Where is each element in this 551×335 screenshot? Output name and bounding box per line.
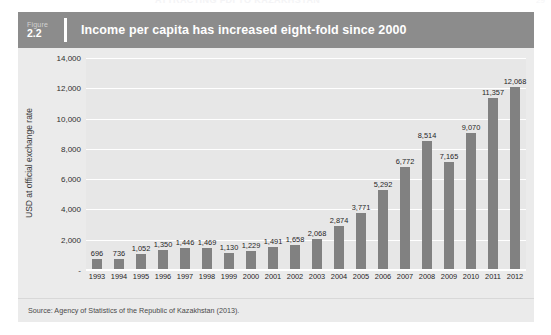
bar-value-label: 9,070 (462, 123, 481, 132)
y-axis-tick-label: 2,000 (61, 235, 81, 244)
figure-source-note: Source: Agency of Statistics of the Repu… (18, 298, 534, 322)
gridline: - (86, 270, 526, 271)
bar[interactable] (312, 239, 322, 270)
bar[interactable] (224, 253, 234, 270)
x-axis-tick-label: 2009 (438, 272, 460, 281)
y-axis-tick-label: 4,000 (61, 205, 81, 214)
y-axis-tick-label: 6,000 (61, 175, 81, 184)
figure-number-block: Figure 2.2 (18, 21, 64, 39)
x-axis-tick-label: 1997 (174, 272, 196, 281)
figure-number-label: 2.2 (27, 28, 64, 39)
x-axis-tick-label: 1995 (130, 272, 152, 281)
bar-slot: 1,446 (174, 58, 196, 270)
y-axis-tick-label: 8,000 (61, 144, 81, 153)
bar[interactable] (400, 167, 410, 270)
bar-slot: 1,052 (130, 58, 152, 270)
x-axis-labels: 1993199419951996199719981999200020012002… (86, 272, 526, 281)
bar[interactable] (510, 87, 520, 270)
bar-value-label: 1,658 (286, 235, 305, 244)
figure-header-band: Figure 2.2 Income per capita has increas… (18, 12, 534, 48)
bar-value-label: 8,514 (418, 131, 437, 140)
bar-value-label: 736 (113, 249, 125, 258)
bar[interactable] (422, 141, 432, 270)
bar[interactable] (158, 250, 168, 270)
bar-slot: 1,491 (262, 58, 284, 270)
page-running-header: ATTRACTING FDI TO KAZAKHSTAN 29 (0, 0, 551, 10)
bar-slot: 2,874 (328, 58, 350, 270)
bar-slot: 8,514 (416, 58, 438, 270)
bar[interactable] (136, 254, 146, 270)
bar-value-label: 1,446 (176, 238, 195, 247)
bar[interactable] (334, 226, 344, 270)
y-axis-tick-label: 10,000 (57, 114, 81, 123)
bar[interactable] (466, 133, 476, 270)
y-axis-tick-label: 12,000 (57, 84, 81, 93)
x-axis-tick-label: 2006 (372, 272, 394, 281)
bar-slot: 6,772 (394, 58, 416, 270)
y-axis-title: USD at official exchange rate (22, 48, 36, 278)
bar[interactable] (290, 245, 300, 270)
x-axis-tick-label: 1998 (196, 272, 218, 281)
bar-value-label: 1,491 (264, 237, 283, 246)
bar-slot: 9,070 (460, 58, 482, 270)
bar[interactable] (268, 247, 278, 270)
bar-value-label: 2,874 (330, 216, 349, 225)
x-axis-tick-label: 2012 (504, 272, 526, 281)
x-axis-tick-label: 2007 (394, 272, 416, 281)
bar[interactable] (356, 213, 366, 270)
bar[interactable] (488, 98, 498, 270)
bars-group: 6967361,0521,3501,4461,4691,1301,2291,49… (86, 58, 526, 270)
bar-slot: 736 (108, 58, 130, 270)
source-text: Source: Agency of Statistics of the Repu… (28, 306, 239, 315)
bar-slot: 7,165 (438, 58, 460, 270)
x-axis-tick-label: 2003 (306, 272, 328, 281)
page-root: ATTRACTING FDI TO KAZAKHSTAN 29 Figure 2… (0, 0, 551, 335)
bar-value-label: 3,771 (352, 203, 371, 212)
x-axis-tick-label: 2011 (482, 272, 504, 281)
bar-slot: 11,357 (482, 58, 504, 270)
bar-slot: 696 (86, 58, 108, 270)
running-header-title: ATTRACTING FDI TO KAZAKHSTAN (155, 0, 320, 5)
bar-value-label: 696 (91, 249, 103, 258)
bar-value-label: 1,052 (132, 244, 151, 253)
bar-value-label: 5,292 (374, 180, 393, 189)
figure-title: Income per capita has increased eight-fo… (81, 23, 407, 37)
header-divider (64, 18, 67, 42)
bar-value-label: 1,229 (242, 241, 261, 250)
x-axis-tick-label: 2005 (350, 272, 372, 281)
bar-slot: 1,658 (284, 58, 306, 270)
bar-value-label: 1,130 (220, 243, 239, 252)
x-axis-tick-label: 2010 (460, 272, 482, 281)
bar-value-label: 12,068 (504, 77, 527, 86)
bar-slot: 1,469 (196, 58, 218, 270)
bar-slot: 5,292 (372, 58, 394, 270)
x-axis-tick-label: 1994 (108, 272, 130, 281)
bar-value-label: 1,350 (154, 240, 173, 249)
chart-body: USD at official exchange rate -2,0004,00… (18, 48, 534, 298)
plot-area: -2,0004,0006,0008,00010,00012,00014,000 … (86, 58, 526, 270)
bar-slot: 1,229 (240, 58, 262, 270)
bar-value-label: 6,772 (396, 157, 415, 166)
bar-slot: 1,130 (218, 58, 240, 270)
bar-slot: 1,350 (152, 58, 174, 270)
x-axis-tick-label: 2008 (416, 272, 438, 281)
axis-baseline (86, 269, 526, 270)
running-page-number: 29 (536, 0, 545, 5)
bar[interactable] (246, 251, 256, 270)
bar-slot: 3,771 (350, 58, 372, 270)
figure-card: Figure 2.2 Income per capita has increas… (18, 12, 534, 322)
bar-slot: 2,068 (306, 58, 328, 270)
bar[interactable] (180, 248, 190, 270)
bar[interactable] (202, 248, 212, 270)
bar-slot: 12,068 (504, 58, 526, 270)
bar-value-label: 11,357 (482, 88, 504, 97)
bar[interactable] (378, 190, 388, 270)
x-axis-tick-label: 2001 (262, 272, 284, 281)
x-axis-tick-label: 2004 (328, 272, 350, 281)
x-axis-tick-label: 2002 (284, 272, 306, 281)
x-axis-tick-label: 1999 (218, 272, 240, 281)
y-axis-tick-label: - (78, 266, 81, 275)
x-axis-tick-label: 1993 (86, 272, 108, 281)
bar[interactable] (444, 162, 454, 270)
bar-value-label: 7,165 (440, 152, 459, 161)
